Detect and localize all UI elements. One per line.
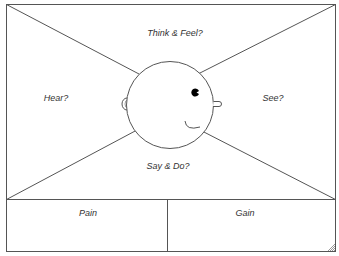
quadrant-think-feel: Think & Feel? — [147, 28, 203, 38]
quadrant-see: See? — [262, 93, 283, 103]
quadrant-say-do: Say & Do? — [146, 161, 189, 171]
empathy-map-canvas — [0, 0, 339, 256]
nose-icon — [213, 102, 222, 107]
panel-pain: Pain — [79, 208, 97, 218]
quadrant-hear: Hear? — [44, 93, 69, 103]
panel-gain: Gain — [235, 208, 254, 218]
head-circle — [127, 62, 214, 149]
